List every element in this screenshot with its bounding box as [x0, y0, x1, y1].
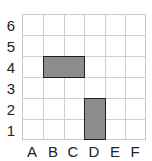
column-label: E: [105, 144, 125, 159]
row-label: 1: [4, 123, 18, 138]
row-label: 2: [4, 102, 18, 117]
column-label: F: [125, 144, 145, 159]
shaded-rect-d1-d2: [84, 98, 106, 140]
row-label: 4: [4, 60, 18, 75]
row-label: 6: [4, 18, 18, 33]
column-label: C: [63, 144, 83, 159]
row-label: 5: [4, 39, 18, 54]
row-label: 3: [4, 81, 18, 96]
coordinate-grid: [22, 14, 146, 140]
grid-line: [23, 35, 145, 36]
shaded-rect-b4-c4: [43, 56, 85, 78]
column-label: A: [22, 144, 42, 159]
column-label: D: [84, 144, 104, 159]
column-label: B: [43, 144, 63, 159]
